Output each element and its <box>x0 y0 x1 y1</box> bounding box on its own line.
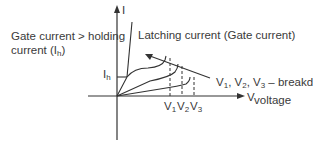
gate-line-1: Gate current > holding <box>11 29 125 43</box>
tick-v1-sub: 1 <box>172 105 176 114</box>
tick-v2-sub: 2 <box>185 105 189 114</box>
tick-v2-main: V <box>177 100 185 112</box>
tick-v3-main: V <box>190 100 198 112</box>
tick-v3: V3 <box>190 99 202 117</box>
tick-v1-main: V <box>164 100 172 112</box>
curve-v1 <box>117 56 166 96</box>
y-axis-arrow-icon <box>114 5 120 13</box>
bd-p0: V <box>216 76 224 88</box>
ih-sub: h <box>106 73 110 82</box>
bd-p2: , V <box>228 76 242 88</box>
breakdown-arrow-line <box>150 56 210 78</box>
y-axis-label: I <box>122 3 125 17</box>
tick-v1: V1 <box>164 99 176 117</box>
holding-current-label: Ih <box>103 67 111 85</box>
gate-text: current (I <box>11 44 57 56</box>
gate-line-2: current (Ih) <box>11 43 125 61</box>
tick-v2: V2 <box>177 99 189 117</box>
thyristor-vi-diagram <box>0 0 313 147</box>
gate-close: ) <box>61 44 65 56</box>
breakdown-line-2: voltage <box>216 93 313 107</box>
latching-line <box>127 22 132 77</box>
gate-current-annotation: Gate current > holding current (Ih) <box>11 29 125 61</box>
bd-p4: , V <box>247 76 261 88</box>
tick-v3-sub: 3 <box>198 105 202 114</box>
breakdown-label: V1, V2, V3 – breakdown voltage <box>216 75 313 107</box>
latching-current-label: Latching current (Gate current) <box>138 28 295 42</box>
bd-p6: – breakdown <box>265 76 313 88</box>
breakdown-line-1: V1, V2, V3 – breakdown <box>216 75 313 93</box>
